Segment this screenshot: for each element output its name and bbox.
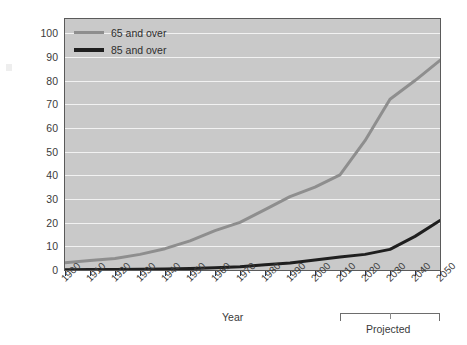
x-axis-title: Year — [222, 311, 243, 323]
legend-swatch-85-and-over — [74, 48, 104, 52]
y-axis-tick-label: 30 — [32, 194, 58, 204]
y-axis-tick-label: 10 — [32, 241, 58, 251]
y-axis-tick-label: 60 — [32, 123, 58, 133]
y-axis-tick-label: 80 — [32, 76, 58, 86]
legend-label-85-and-over: 85 and over — [111, 44, 166, 56]
series-line — [65, 60, 440, 262]
y-axis-tick-label: 70 — [32, 99, 58, 109]
y-axis-tick-label: 90 — [32, 52, 58, 62]
legend-item-65-and-over: 65 and over — [74, 24, 166, 41]
y-axis-tick-label: 0 — [32, 265, 58, 275]
projected-label: Projected — [366, 323, 410, 335]
projected-bracket-tick — [390, 313, 391, 319]
chart-figure: 0102030405060708090100 People (millions)… — [0, 0, 467, 345]
y-axis-tick-label: 20 — [32, 218, 58, 228]
legend-item-85-and-over: 85 and over — [74, 41, 166, 58]
legend-label-65-and-over: 65 and over — [111, 27, 166, 39]
y-axis-tick-label: 50 — [32, 147, 58, 157]
y-axis-tick-label: 40 — [32, 170, 58, 180]
legend-swatch-65-and-over — [74, 31, 104, 34]
x-axis-tick-label: 1900 — [59, 260, 83, 284]
scan-artifact — [6, 64, 12, 71]
chart-legend: 65 and over 85 and over — [74, 24, 166, 58]
y-axis-tick-label: 100 — [32, 28, 58, 38]
